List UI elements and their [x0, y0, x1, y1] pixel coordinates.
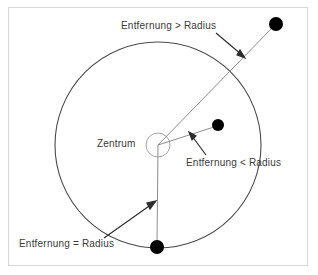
point-inside [212, 119, 224, 131]
label-distance-less-than-radius: Entfernung < Radius [186, 157, 281, 168]
arrow-on-circle [104, 201, 156, 238]
arrow-outside [216, 33, 245, 58]
circle-distance-diagram [0, 0, 318, 275]
figure-canvas: Entfernung > Radius Zentrum Entfernung <… [0, 0, 318, 275]
segment-to-circle-point [157, 145, 158, 243]
label-center: Zentrum [97, 138, 136, 149]
point-on-circle [150, 240, 164, 254]
label-distance-equals-radius: Entfernung = Radius [19, 238, 114, 249]
label-distance-greater-than-radius: Entfernung > Radius [121, 20, 216, 31]
arrow-inside [189, 132, 206, 155]
point-outside [269, 17, 283, 31]
